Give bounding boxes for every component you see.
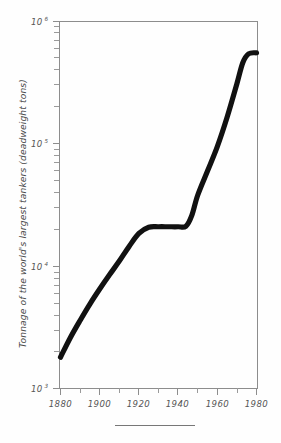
x-tick-label-1900: 1900: [88, 399, 112, 409]
x-tick-label-1960: 1960: [206, 399, 230, 409]
y-axis-title: Tonnage of the world's largest tankers (…: [18, 79, 28, 348]
y-tick-label-1e5: 10: [31, 139, 43, 149]
figure-container: 10 6 10 5 10 4 10 3 1880: [0, 0, 281, 443]
y-tick-label-1e4: 10: [31, 262, 43, 272]
y-tick-exponent-1e4: 4: [45, 261, 49, 267]
x-tick-label-1880: 1880: [49, 399, 73, 409]
y-tick-exponent-1e5: 5: [45, 138, 49, 144]
x-tick-label-1920: 1920: [127, 399, 151, 409]
y-tick-label-1e6: 10: [31, 17, 43, 27]
y-tick-exponent-1e3: 3: [45, 383, 49, 389]
x-tick-label-1980: 1980: [245, 399, 269, 409]
tanker-tonnage-line-chart: 10 6 10 5 10 4 10 3 1880: [0, 0, 281, 443]
x-tick-label-1940: 1940: [166, 399, 190, 409]
y-tick-label-1e3: 10: [31, 384, 43, 394]
y-tick-exponent-1e6: 6: [45, 16, 49, 22]
